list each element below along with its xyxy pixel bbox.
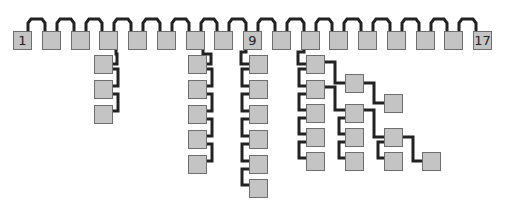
node-9: 9: [243, 31, 262, 50]
node-4-child-3: [94, 105, 113, 124]
node-7-child-1: [188, 55, 207, 74]
node-4-child-2: [94, 80, 113, 99]
node-label: 17: [474, 32, 491, 49]
node-7: [186, 31, 205, 50]
node-1: 1: [13, 31, 32, 50]
node-11-a-2: [306, 80, 325, 99]
node-5: [128, 31, 147, 50]
linked-tree-diagram: 1 9 17: [0, 0, 507, 205]
node-9-child-1: [249, 55, 268, 74]
node-13: [358, 31, 377, 50]
node-16: [444, 31, 463, 50]
node-9-child-6: [249, 179, 268, 198]
node-11-a-4: [306, 128, 325, 147]
node-7-child-2: [188, 80, 207, 99]
node-14: [387, 31, 406, 50]
node-3: [71, 31, 90, 50]
node-7-child-3: [188, 105, 207, 124]
node-9-child-4: [249, 130, 268, 149]
node-2: [42, 31, 61, 50]
node-11-b-2: [345, 104, 364, 123]
node-11-a-5: [306, 152, 325, 171]
node-17: 17: [473, 31, 492, 50]
node-11: [301, 31, 320, 50]
node-label: 9: [244, 32, 261, 49]
node-11-b-1: [345, 74, 364, 93]
node-4-child-1: [94, 55, 113, 74]
node-11-c-3: [384, 152, 403, 171]
node-15: [416, 31, 435, 50]
node-7-child-5: [188, 155, 207, 174]
node-11-a-3: [306, 104, 325, 123]
node-11-b-4: [345, 152, 364, 171]
node-7-child-4: [188, 130, 207, 149]
node-12: [329, 31, 348, 50]
node-11-c-2: [384, 128, 403, 147]
node-9-child-3: [249, 105, 268, 124]
node-6: [157, 31, 176, 50]
node-4: [99, 31, 118, 50]
node-9-child-5: [249, 155, 268, 174]
node-label: 1: [14, 32, 31, 49]
node-9-child-2: [249, 80, 268, 99]
node-11-b-3: [345, 128, 364, 147]
node-8: [214, 31, 233, 50]
node-10: [272, 31, 291, 50]
node-11-c-1: [384, 94, 403, 113]
node-11-a-1: [306, 55, 325, 74]
node-11-d-1: [422, 152, 441, 171]
